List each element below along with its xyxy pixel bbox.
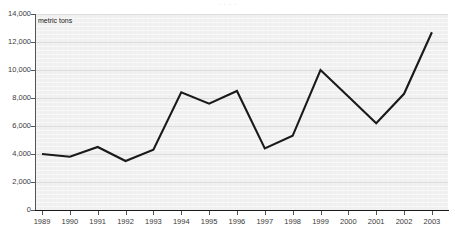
x-axis-tick: [70, 211, 71, 215]
y-axis-tick: [31, 126, 35, 127]
y-axis-line: [35, 14, 36, 211]
unit-annotation: metric tons: [38, 16, 72, 26]
x-axis-tick: [237, 211, 238, 215]
y-axis-tick: [31, 210, 35, 211]
x-axis-tick: [126, 211, 127, 215]
x-axis-tick: [209, 211, 210, 215]
y-axis-tick-label: 0: [1, 206, 31, 214]
y-axis-tick-label: 14,000: [1, 10, 31, 18]
gridline: [35, 182, 448, 183]
x-axis-tick: [348, 211, 349, 215]
y-axis-tick: [31, 98, 35, 99]
y-axis-tick-label: 6,000: [1, 122, 31, 130]
x-axis-tick: [98, 211, 99, 215]
x-axis-tick: [42, 211, 43, 215]
y-axis-tick-label: 2,000: [1, 178, 31, 186]
plot-background-texture: [35, 14, 448, 210]
y-axis-tick-label: 8,000: [1, 94, 31, 102]
x-axis-tick: [265, 211, 266, 215]
gridline: [35, 98, 448, 99]
x-axis-tick: [181, 211, 182, 215]
y-axis-tick-label: 10,000: [1, 66, 31, 74]
x-axis-tick: [432, 211, 433, 215]
gridline: [35, 70, 448, 71]
y-axis-tick: [31, 70, 35, 71]
gridline: [35, 154, 448, 155]
gridline: [35, 14, 448, 15]
y-axis-tick-label: 4,000: [1, 150, 31, 158]
x-axis-tick: [293, 211, 294, 215]
x-axis-tick: [376, 211, 377, 215]
gridline: [35, 126, 448, 127]
y-axis-tick-label: 12,000: [1, 38, 31, 46]
y-axis-tick: [31, 154, 35, 155]
y-axis-tick: [31, 182, 35, 183]
x-axis-tick: [153, 211, 154, 215]
gridline: [35, 42, 448, 43]
x-axis-tick: [321, 211, 322, 215]
x-axis-tick-label: 2003: [414, 217, 450, 226]
y-axis-tick: [31, 14, 35, 15]
line-chart: · · · · metric tons 02,0004,0006,0008,00…: [0, 0, 455, 238]
y-axis-tick: [31, 42, 35, 43]
scan-header-text: · · · ·: [0, 0, 455, 9]
x-axis-tick: [404, 211, 405, 215]
plot-area: metric tons: [35, 14, 448, 210]
